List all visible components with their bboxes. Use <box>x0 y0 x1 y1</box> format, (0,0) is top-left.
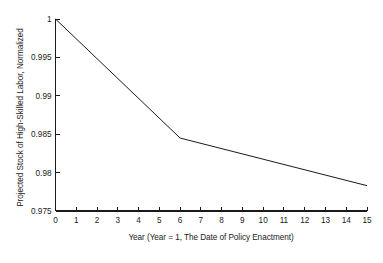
data-line <box>56 19 368 186</box>
data-series <box>56 19 368 186</box>
x-tick-label: 3 <box>116 216 121 225</box>
x-tick-label: 1 <box>74 216 79 225</box>
x-tick-label: 9 <box>240 216 245 225</box>
x-tick-label: 5 <box>157 216 162 225</box>
y-tick-label: 0.99 <box>36 92 52 101</box>
x-axis-ticks: 0123456789101112131415 <box>53 207 372 225</box>
x-tick-label: 7 <box>199 216 204 225</box>
axes <box>56 19 368 211</box>
y-tick-label: 0.98 <box>36 169 52 178</box>
x-tick-label: 13 <box>321 216 331 225</box>
y-tick-label: 0.985 <box>31 130 52 139</box>
x-tick-label: 8 <box>219 216 224 225</box>
x-tick-label: 0 <box>53 216 58 225</box>
y-tick-label: 1 <box>47 15 52 24</box>
chart-figure: Projected Stock of High-Skilled Labor, N… <box>0 0 383 263</box>
x-tick-label: 15 <box>362 216 372 225</box>
x-tick-label: 6 <box>178 216 183 225</box>
x-tick-label: 4 <box>136 216 141 225</box>
y-tick-label: 0.995 <box>31 53 52 62</box>
x-tick-label: 12 <box>300 216 310 225</box>
y-tick-label: 0.975 <box>31 207 52 216</box>
x-tick-label: 14 <box>342 216 352 225</box>
x-tick-label: 2 <box>95 216 100 225</box>
x-tick-label: 11 <box>280 216 289 225</box>
x-tick-label: 10 <box>259 216 269 225</box>
line-chart-plot: 0.9750.980.9850.990.9951 012345678910111… <box>0 0 383 263</box>
